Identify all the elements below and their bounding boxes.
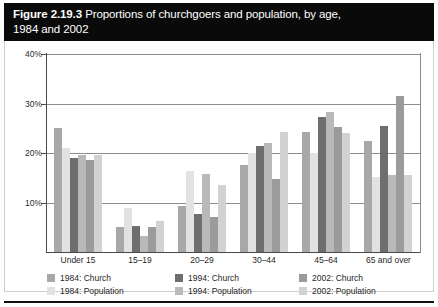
bar: [94, 155, 102, 252]
y-tick-label-30: 30%: [12, 99, 42, 109]
figure-title-bar: Figure 2.19.3 Proportions of churchgoers…: [4, 3, 434, 41]
legend-swatch-1994-church: [175, 274, 183, 282]
x-label-under-15: Under 15: [47, 255, 109, 265]
legend-column-2002: 2002: Church 2002: Population: [299, 272, 376, 298]
x-label-45-64: 45–64: [295, 255, 357, 265]
bar: [334, 127, 342, 252]
bar: [62, 148, 70, 252]
legend-item-1984-population: 1984: Population: [47, 285, 124, 296]
bar-group: [295, 54, 357, 252]
bar: [404, 175, 412, 252]
legend-swatch-2002-church: [299, 274, 307, 282]
figure-page: Figure 2.19.3 Proportions of churchgoers…: [0, 0, 438, 307]
plot-right-edge: [420, 53, 421, 253]
legend-item-1994-population: 1994: Population: [175, 285, 252, 296]
bottom-rule: [4, 301, 434, 303]
bar: [310, 153, 318, 252]
bar: [194, 214, 202, 252]
bar: [364, 141, 372, 252]
legend-label-2002-church: 2002: Church: [312, 273, 363, 283]
legend-item-2002-population: 2002: Population: [299, 285, 376, 296]
bar: [342, 133, 350, 252]
legend-label-1984-population: 1984: Population: [60, 286, 124, 296]
legend-column-1984: 1984: Church 1984: Population: [47, 272, 124, 298]
legend-label-1994-church: 1994: Church: [188, 273, 239, 283]
bar: [124, 208, 132, 252]
bar: [240, 165, 248, 252]
bar: [272, 179, 280, 252]
plot-area: [47, 54, 420, 252]
legend-item-1984-church: 1984: Church: [47, 272, 124, 283]
bar-group: [171, 54, 233, 252]
y-tick-label-20: 20%: [12, 148, 42, 158]
bar: [78, 155, 86, 252]
bar: [54, 128, 62, 252]
bar: [218, 185, 226, 252]
bar: [86, 160, 94, 252]
legend-swatch-1984-population: [47, 287, 55, 295]
bar: [248, 153, 256, 252]
y-axis: 40% 30% 20% 10%: [4, 0, 42, 307]
legend-swatch-1984-church: [47, 274, 55, 282]
figure-title-line-1: Figure 2.19.3 Proportions of churchgoers…: [13, 7, 426, 22]
legend-label-2002-population: 2002: Population: [312, 286, 376, 296]
chart-legend: 1984: Church 1984: Population 1994: Chur…: [47, 272, 427, 298]
bar: [132, 226, 140, 252]
x-label-30-44: 30–44: [233, 255, 295, 265]
bar: [178, 206, 186, 252]
bar: [202, 174, 210, 252]
legend-column-1994: 1994: Church 1994: Population: [175, 272, 252, 298]
figure-title-text: Proportions of churchgoers and populatio…: [85, 8, 341, 20]
bar: [318, 117, 326, 252]
bar: [140, 236, 148, 252]
bar-group: [357, 54, 419, 252]
y-tick-label-10: 10%: [12, 198, 42, 208]
x-label-15-19: 15–19: [109, 255, 171, 265]
x-label-65-and-over: 65 and over: [357, 255, 420, 265]
legend-swatch-1994-population: [175, 287, 183, 295]
bar: [280, 132, 288, 252]
legend-item-1994-church: 1994: Church: [175, 272, 252, 283]
figure-title-line-2: 1984 and 2002: [13, 22, 426, 37]
x-axis-line: [46, 252, 421, 253]
bar: [388, 175, 396, 252]
bar: [186, 171, 194, 252]
legend-item-2002-church: 2002: Church: [299, 272, 376, 283]
legend-swatch-2002-population: [299, 287, 307, 295]
x-label-20-29: 20–29: [171, 255, 233, 265]
bar: [256, 146, 264, 252]
bar-group: [233, 54, 295, 252]
bar: [326, 112, 334, 252]
bar: [396, 96, 404, 252]
y-tick-label-40: 40%: [12, 49, 42, 59]
bar: [210, 217, 218, 252]
bar: [264, 143, 272, 252]
bar: [380, 126, 388, 252]
bar: [156, 221, 164, 252]
bar: [116, 227, 124, 252]
x-axis-labels: Under 15 15–19 20–29 30–44 45–64 65 and …: [47, 255, 420, 269]
bar: [70, 158, 78, 252]
bar-group: [109, 54, 171, 252]
bar: [372, 177, 380, 252]
bar-group: [47, 54, 109, 252]
legend-label-1984-church: 1984: Church: [60, 273, 111, 283]
legend-label-1994-population: 1994: Population: [188, 286, 252, 296]
bar: [148, 227, 156, 252]
bar: [302, 132, 310, 252]
